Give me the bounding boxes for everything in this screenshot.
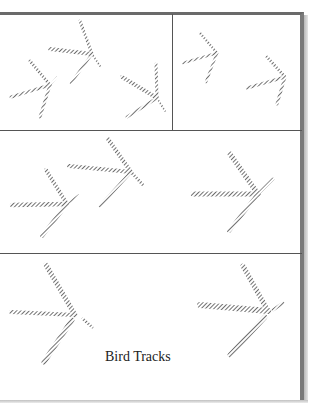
bird-track-2 [50,21,100,83]
bird-track-6 [12,170,79,236]
bird-track-1 [11,61,57,117]
bird-track-9 [11,265,92,362]
figure-caption: Bird Tracks [105,349,171,365]
bird-track-10 [200,266,283,355]
bird-track-7 [69,139,143,206]
bird-track-8 [193,154,273,231]
bird-track-3 [122,64,165,117]
bird-track-4 [183,33,217,82]
bird-track-5 [247,57,285,104]
